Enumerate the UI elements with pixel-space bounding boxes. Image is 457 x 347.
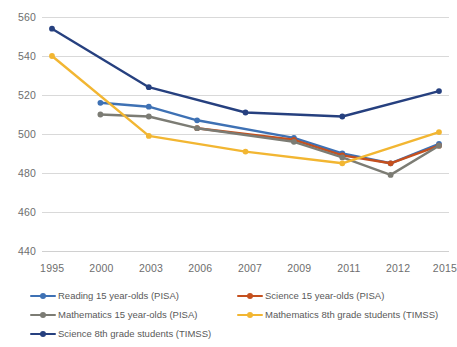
- series-point: [194, 117, 200, 123]
- legend-item-label: Mathematics 15 year-olds (PISA): [58, 309, 197, 320]
- x-axis-tick-label: 2007: [238, 262, 262, 274]
- grid-and-series: [42, 0, 449, 285]
- y-axis-tick-label: 480: [18, 167, 36, 179]
- x-axis-tick-label: 2006: [188, 262, 212, 274]
- legend-item-label: Mathematics 8th grade students (TIMSS): [265, 309, 438, 320]
- y-axis-tick-label: 440: [18, 245, 36, 257]
- series-lines: [42, 0, 449, 285]
- series-point: [436, 129, 442, 135]
- legend-item-label: Reading 15 year-olds (PISA): [58, 290, 179, 301]
- series-point: [339, 155, 345, 161]
- series-point: [146, 133, 152, 139]
- series-point: [388, 160, 394, 166]
- legend-line-icon: [30, 291, 56, 300]
- legend-item-label: Science 8th grade students (TIMSS): [58, 328, 211, 339]
- series-point: [49, 26, 55, 32]
- legend-line-icon: [237, 291, 263, 300]
- y-axis-tick-label: 540: [18, 50, 36, 62]
- y-axis-tick-label: 520: [18, 89, 36, 101]
- y-axis-tick-label: 500: [18, 128, 36, 140]
- x-axis-tick-label: 2011: [337, 262, 360, 274]
- chart-legend: Reading 15 year-olds (PISA) Science 15 y…: [0, 288, 453, 347]
- series-point: [291, 139, 297, 145]
- series-point: [436, 88, 442, 94]
- series-point: [243, 149, 249, 155]
- legend-line-icon: [237, 310, 263, 319]
- series-point: [49, 53, 55, 59]
- series-point: [98, 112, 104, 118]
- legend-item-science-pisa[interactable]: Science 15 year-olds (PISA): [237, 290, 384, 301]
- y-axis-tick-labels: 560 540 520 500 480 460 440: [0, 0, 40, 285]
- series-point: [146, 104, 152, 110]
- x-axis-tick-label: 2012: [386, 262, 410, 274]
- x-axis-tick-label: 2015: [433, 262, 457, 274]
- series-point: [194, 125, 200, 131]
- series-point: [436, 143, 442, 149]
- legend-item-mathematics-pisa[interactable]: Mathematics 15 year-olds (PISA): [30, 309, 197, 320]
- x-axis-tick-label: 1995: [40, 262, 64, 274]
- x-axis-tick-label: 2003: [139, 262, 163, 274]
- series-point: [146, 114, 152, 120]
- series-point: [243, 110, 249, 116]
- legend-line-icon: [30, 310, 56, 319]
- x-axis-tick-labels: 1995 2000 2003 2006 2007 2009 2011 2012 …: [42, 252, 449, 282]
- y-axis-tick-label: 460: [18, 206, 36, 218]
- plot-area: 560 540 520 500 480 460 440 1995 2000 20…: [0, 0, 453, 285]
- series-line: [100, 115, 439, 175]
- series-point: [388, 172, 394, 178]
- series-point: [98, 100, 104, 106]
- legend-line-icon: [30, 329, 56, 338]
- series-point: [339, 114, 345, 120]
- legend-item-mathematics-timss[interactable]: Mathematics 8th grade students (TIMSS): [237, 309, 438, 320]
- x-axis-tick-label: 2009: [287, 262, 311, 274]
- x-axis-tick-label: 2000: [89, 262, 113, 274]
- legend-item-reading-pisa[interactable]: Reading 15 year-olds (PISA): [30, 290, 179, 301]
- legend-item-label: Science 15 year-olds (PISA): [265, 290, 384, 301]
- series-point: [339, 160, 345, 166]
- y-axis-tick-label: 560: [18, 11, 36, 23]
- series-point: [146, 84, 152, 90]
- legend-item-science-timss[interactable]: Science 8th grade students (TIMSS): [30, 328, 211, 339]
